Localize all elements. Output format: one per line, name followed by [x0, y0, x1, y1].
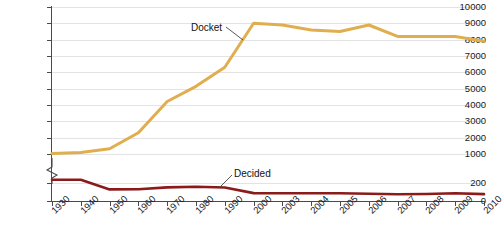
- y-tick-mark: [47, 89, 52, 90]
- y-tick-mark: [47, 7, 52, 8]
- gridline: [52, 121, 484, 122]
- gridline: [52, 154, 484, 155]
- y-tick-mark: [47, 72, 52, 73]
- axis-break-icon: [45, 158, 59, 184]
- y-tick-mark: [47, 105, 52, 106]
- series-label-decided: Decided: [234, 168, 271, 179]
- gridline: [52, 138, 484, 139]
- gridline: [52, 89, 484, 90]
- gridline: [52, 23, 484, 24]
- y-tick-label: 6000: [440, 67, 486, 77]
- y-tick-label: 200: [440, 178, 486, 188]
- y-tick-label: 3000: [440, 116, 486, 126]
- y-tick-label: 10000: [440, 2, 486, 12]
- y-tick-label: 2000: [440, 133, 486, 143]
- y-tick-label: 7000: [440, 51, 486, 61]
- gridline: [52, 56, 484, 57]
- gridline: [52, 72, 484, 73]
- y-tick-mark: [47, 23, 52, 24]
- gridline: [52, 40, 484, 41]
- y-tick-label: 1000: [440, 149, 486, 159]
- gridline: [52, 105, 484, 106]
- y-tick-label: 9000: [440, 18, 486, 28]
- y-tick-mark: [47, 40, 52, 41]
- series-label-docket: Docket: [191, 22, 222, 33]
- y-tick-mark: [47, 138, 52, 139]
- y-tick-mark: [47, 56, 52, 57]
- y-tick-label: 5000: [440, 84, 486, 94]
- y-tick-label: 8000: [440, 35, 486, 45]
- y-tick-mark: [47, 154, 52, 155]
- gridline: [52, 183, 484, 184]
- y-tick-mark: [47, 121, 52, 122]
- y-tick-label: 4000: [440, 100, 486, 110]
- gridline: [52, 7, 484, 8]
